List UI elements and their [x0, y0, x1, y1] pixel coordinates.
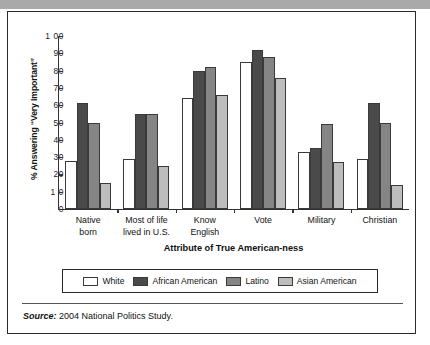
bar	[193, 71, 205, 209]
legend-item: White	[83, 276, 124, 286]
source-label: Source:	[23, 311, 57, 321]
bar	[357, 159, 369, 209]
x-tick-mark	[117, 209, 118, 213]
x-tick-mark	[176, 209, 177, 213]
figure-page: % Answering “Very Important” 01 02030405…	[0, 0, 430, 345]
bar	[123, 159, 135, 209]
scan-top-band	[0, 0, 430, 9]
bar	[216, 95, 228, 209]
bar	[146, 114, 158, 209]
bar	[298, 152, 310, 209]
bar	[100, 183, 112, 209]
figure-frame: % Answering “Very Important” 01 02030405…	[7, 11, 416, 334]
x-tick-mark	[234, 209, 235, 213]
bar-group	[351, 36, 409, 209]
bar-group	[234, 36, 292, 209]
bar-groups-container	[59, 36, 409, 209]
x-axis-title: Attribute of True American-ness	[58, 243, 409, 253]
legend-swatch	[83, 277, 98, 286]
bar	[65, 161, 77, 209]
legend-item: Asian American	[278, 276, 357, 286]
bar	[321, 124, 333, 209]
bar	[275, 78, 287, 209]
source-value: 2004 National Politics Study.	[59, 311, 173, 321]
bar-group	[117, 36, 175, 209]
legend-item: Latino	[226, 276, 268, 286]
bar	[182, 98, 194, 209]
bar	[380, 123, 392, 210]
plot-area: % Answering “Very Important” 01 02030405…	[8, 12, 417, 262]
legend-swatch	[226, 277, 241, 286]
x-tick-label-line: English	[170, 227, 240, 239]
x-tick-label: Christian	[345, 215, 415, 227]
legend-label: White	[102, 276, 124, 286]
legend-label: Latino	[245, 276, 268, 286]
legend-label: Asian American	[297, 276, 357, 286]
source-divider	[22, 303, 403, 304]
x-tick-label-line: Christian	[345, 215, 415, 227]
bar-group	[292, 36, 350, 209]
legend-swatch	[133, 277, 148, 286]
bar-group	[176, 36, 234, 209]
bar	[368, 103, 380, 209]
bar-group	[59, 36, 117, 209]
bar	[263, 57, 275, 209]
x-tick-mark	[351, 209, 352, 213]
bar	[88, 123, 100, 210]
bar	[333, 162, 345, 209]
source-note: Source: 2004 National Politics Study.	[23, 311, 173, 321]
x-tick-mark	[292, 209, 293, 213]
bar	[391, 185, 403, 209]
legend-swatch	[278, 277, 293, 286]
bar	[158, 166, 170, 209]
bar	[205, 67, 217, 209]
legend-item: African American	[133, 276, 217, 286]
bar	[240, 62, 252, 209]
bar	[252, 50, 264, 209]
bar	[77, 103, 89, 209]
legend-label: African American	[152, 276, 217, 286]
bar	[310, 148, 322, 209]
bar	[135, 114, 147, 209]
chart-legend: WhiteAfrican AmericanLatinoAsian America…	[62, 269, 378, 293]
